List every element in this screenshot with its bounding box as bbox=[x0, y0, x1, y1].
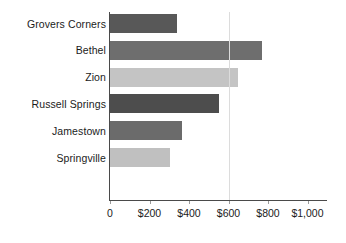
x-axis-tick-labels: 0$200$400$600$800$1,000 bbox=[0, 206, 346, 222]
bar bbox=[110, 68, 238, 87]
bar bbox=[110, 41, 262, 60]
x-axis-tick-label: $1,000 bbox=[291, 206, 323, 220]
x-axis-tick bbox=[110, 201, 111, 204]
category-axis-labels: Grovers CornersBethelZionRussell Springs… bbox=[0, 0, 106, 200]
x-axis-tick-label: $800 bbox=[256, 206, 279, 220]
plot-area bbox=[110, 12, 327, 200]
gridline bbox=[229, 12, 230, 200]
x-axis-tick-label: 0 bbox=[107, 206, 113, 220]
x-axis-tick-label: $600 bbox=[217, 206, 240, 220]
x-axis-line bbox=[109, 200, 327, 201]
x-axis-tick-label: $400 bbox=[177, 206, 200, 220]
category-label: Bethel bbox=[0, 44, 106, 56]
x-axis-tick bbox=[150, 201, 151, 204]
x-axis-tick bbox=[189, 201, 190, 204]
bar bbox=[110, 121, 182, 140]
x-axis-tick-label: $200 bbox=[138, 206, 161, 220]
category-label: Springville bbox=[0, 152, 106, 164]
x-axis-tick bbox=[308, 201, 309, 204]
category-label: Grovers Corners bbox=[0, 18, 106, 30]
category-label: Russell Springs bbox=[0, 98, 106, 110]
x-axis-tick bbox=[268, 201, 269, 204]
category-label: Jamestown bbox=[0, 125, 106, 137]
bar bbox=[110, 148, 170, 167]
y-axis-line bbox=[109, 12, 110, 200]
category-label: Zion bbox=[0, 71, 106, 83]
x-axis-tick bbox=[229, 201, 230, 204]
bar bbox=[110, 94, 219, 113]
bar bbox=[110, 14, 177, 33]
bar-chart: Grovers CornersBethelZionRussell Springs… bbox=[0, 0, 346, 243]
